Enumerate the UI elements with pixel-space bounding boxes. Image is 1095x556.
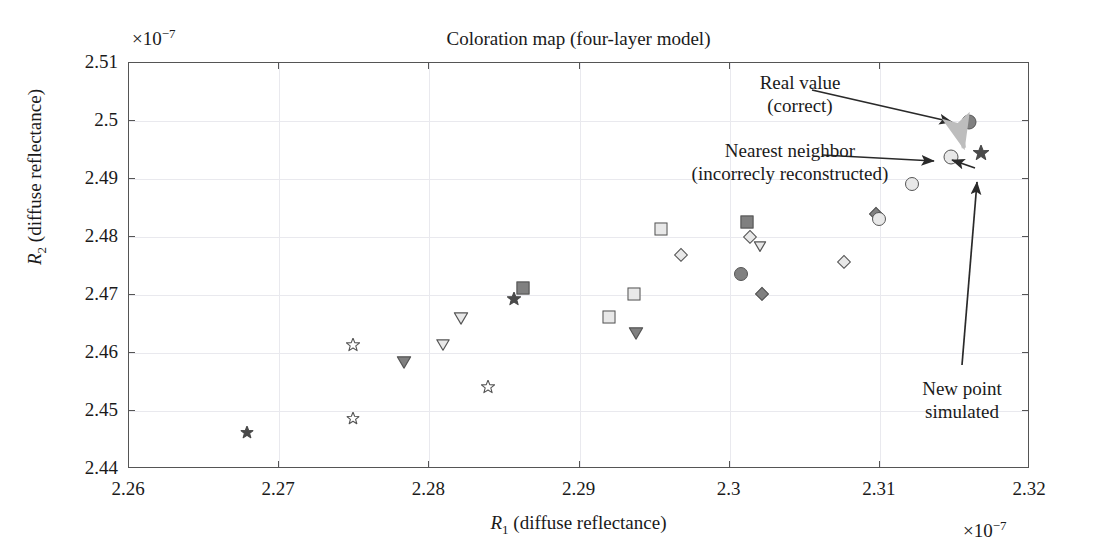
data-point-square-filled (516, 282, 529, 295)
data-point-star-open (346, 338, 360, 356)
x-tick-label: 2.26 (111, 478, 144, 500)
annotation-real-value-line1: Real value (760, 72, 841, 95)
tick-mark-y-right (1022, 294, 1029, 295)
tick-mark-x-top (428, 62, 429, 69)
y-tick-label: 2.48 (52, 225, 118, 247)
data-point-triangle-down-filled (397, 355, 412, 373)
chart-canvas: Coloration map (four-layer model) ×10−7 … (0, 0, 1095, 556)
data-point-circle-filled (734, 267, 748, 281)
data-point-square-filled (740, 215, 753, 228)
tick-mark-y-left (128, 294, 135, 295)
x-axis-exponent: ×10−7 (963, 518, 1007, 542)
tick-mark-y-left (128, 410, 135, 411)
data-point-star-filled (973, 145, 989, 165)
data-point-star-filled (240, 425, 253, 443)
x-axis-label: R1 (diffuse reflectance) (491, 512, 667, 538)
data-point-triangle-down-filled (628, 326, 643, 344)
gridline-horizontal (129, 411, 1028, 412)
gridline-horizontal (129, 295, 1028, 296)
annotation-new-point-line2: simulated (922, 401, 1002, 424)
tick-mark-y-right (1022, 120, 1029, 121)
tick-mark-y-left (128, 120, 135, 121)
tick-mark-x-top (879, 62, 880, 69)
y-axis-label-wrapper: R2 (diffuse reflectance) (24, 89, 50, 265)
x-tick-label: 2.3 (717, 478, 741, 500)
y-tick-label: 2.45 (52, 399, 118, 421)
y-axis-label: R2 (diffuse reflectance) (24, 89, 50, 265)
gridline-vertical (279, 63, 280, 467)
gridline-vertical (880, 63, 881, 467)
y-axis-exponent: ×10−7 (132, 26, 176, 50)
tick-mark-y-right (1022, 352, 1029, 353)
data-point-circle-filled (961, 114, 976, 129)
gridline-horizontal (129, 237, 1028, 238)
x-tick-label: 2.28 (412, 478, 445, 500)
annotation-real-value-line2: (correct) (760, 95, 841, 118)
gridline-vertical (429, 63, 430, 467)
tick-mark-y-right (1022, 178, 1029, 179)
data-point-square-open (655, 223, 668, 236)
chart-title: Coloration map (four-layer model) (447, 28, 711, 50)
tick-mark-y-right (1022, 236, 1029, 237)
data-point-triangle-down-open (754, 239, 767, 257)
tick-mark-x-bottom (879, 461, 880, 468)
tick-mark-x-bottom (579, 461, 580, 468)
gridline-horizontal (129, 121, 1028, 122)
gridline-vertical (580, 63, 581, 467)
tick-mark-x-bottom (428, 461, 429, 468)
annotation-new-point-line1: New point (922, 378, 1002, 401)
plot-area (128, 62, 1029, 468)
annotation-new-point: New point simulated (922, 378, 1002, 424)
tick-mark-x-bottom (278, 461, 279, 468)
x-tick-label: 2.27 (262, 478, 295, 500)
data-point-circle-open (905, 177, 919, 191)
x-tick-label: 2.32 (1012, 478, 1045, 500)
annotation-nearest-neighbor: Nearest neighbor (incorrecly reconstruct… (692, 140, 889, 186)
tick-mark-y-left (128, 352, 135, 353)
x-tick-label: 2.29 (562, 478, 595, 500)
annotation-nn-line1: Nearest neighbor (692, 140, 889, 163)
tick-mark-x-top (579, 62, 580, 69)
gridline-horizontal (129, 353, 1028, 354)
y-tick-label: 2.46 (52, 341, 118, 363)
tick-mark-y-left (128, 236, 135, 237)
data-point-square-open (628, 288, 641, 301)
y-tick-label: 2.5 (52, 109, 118, 131)
gridline-horizontal (129, 179, 1028, 180)
tick-mark-y-right (1022, 410, 1029, 411)
data-point-circle-open (943, 149, 958, 164)
data-point-triangle-down-open (454, 311, 469, 329)
y-tick-label: 2.44 (52, 457, 118, 479)
tick-mark-y-left (128, 178, 135, 179)
annotation-nn-line2: (incorrecly reconstructed) (692, 163, 889, 186)
y-tick-label: 2.51 (52, 51, 118, 73)
x-tick-label: 2.31 (862, 478, 895, 500)
data-point-triangle-down-open (436, 337, 450, 355)
data-point-square-open (602, 311, 615, 324)
tick-mark-x-bottom (729, 461, 730, 468)
tick-mark-x-top (278, 62, 279, 69)
y-tick-label: 2.47 (52, 283, 118, 305)
gridline-vertical (730, 63, 731, 467)
annotation-real-value: Real value (correct) (760, 72, 841, 118)
data-point-circle-open (872, 212, 886, 226)
data-point-star-open (481, 380, 495, 398)
y-tick-label: 2.49 (52, 167, 118, 189)
tick-mark-x-top (729, 62, 730, 69)
data-point-star-open (347, 411, 360, 429)
